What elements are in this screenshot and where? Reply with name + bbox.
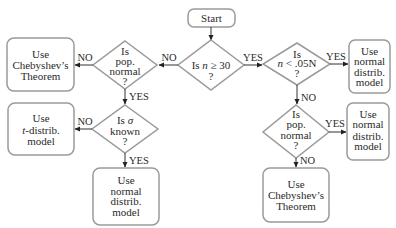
question-mark: ? [294, 139, 299, 151]
text-line: model [356, 76, 384, 88]
text-line: model [27, 135, 55, 147]
result-normal-right-top: Use normal distrib. model [349, 40, 390, 93]
edge-label-no: NO [300, 155, 316, 166]
text-part: Is [192, 59, 203, 71]
edge-label-no: NO [301, 92, 317, 103]
decision-pop-normal-right: Is pop. normal ? [263, 105, 329, 158]
result-chebyshev-right: Use Chebyshev’s Theorem [263, 168, 329, 222]
question-mark: ? [209, 70, 214, 82]
edge-label-yes: YES [129, 155, 149, 166]
text-part: < .05N [283, 57, 316, 69]
edge-label-yes: YES [326, 51, 346, 62]
result-chebyshev-left: Use Chebyshev’s Theorem [7, 38, 74, 91]
result-normal-right-mid: Use normal distrib. model [347, 103, 389, 160]
edge-label-yes: YES [129, 91, 149, 102]
text-line: normal [352, 118, 383, 130]
flowchart: Start Is n ≥ 30 ? NO YES Is pop. normal … [0, 0, 396, 228]
text-line: Use [32, 112, 49, 124]
text-line: model [112, 206, 140, 218]
text-line: model [354, 140, 382, 152]
edge-label-no: NO [161, 52, 177, 63]
result-t-model: Use t-distrib. model [8, 103, 74, 155]
result-normal-bottom: Use normal distrib. model [93, 168, 159, 225]
decision-small-fraction: Is n < .05N ? [263, 43, 330, 85]
text-line: Theorem [21, 70, 61, 82]
question-mark: ? [295, 67, 300, 79]
question-mark: ? [123, 75, 128, 87]
edge-label-no: NO [77, 116, 93, 127]
decision-sample-size: Is n ≥ 30 ? [178, 40, 244, 90]
edge-label-no: NO [77, 52, 93, 63]
start-label: Start [201, 12, 222, 24]
edge-label-yes: YES [325, 118, 345, 129]
decision-sigma-known: Is σ known ? [92, 105, 158, 153]
decision-pop-normal-left: Is pop. normal ? [93, 41, 157, 89]
text-line: Theorem [276, 200, 316, 212]
question-mark: ? [123, 135, 128, 147]
edge-label-yes: YES [243, 52, 263, 63]
start-node: Start [188, 9, 235, 27]
